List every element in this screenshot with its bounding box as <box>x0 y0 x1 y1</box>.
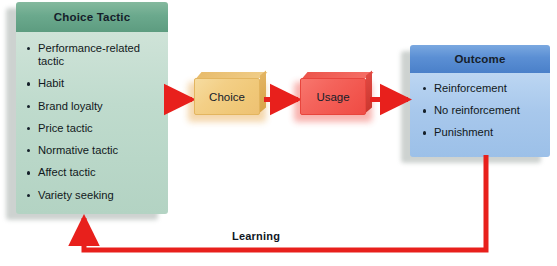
choice-node-right-face <box>260 70 266 112</box>
outcome-body: Reinforcement No reinforcement Punishmen… <box>410 73 550 157</box>
outcome-list: Reinforcement No reinforcement Punishmen… <box>422 82 544 140</box>
flow-diagram: Choice Tactic Performance-related tactic… <box>0 0 557 266</box>
list-item: Variety seeking <box>26 189 162 202</box>
choice-node-label: Choice <box>194 78 260 115</box>
usage-node[interactable]: Usage <box>300 78 366 115</box>
choice-tactic-list: Performance-related tactic Habit Brand l… <box>26 42 162 202</box>
list-item: Affect tactic <box>26 166 162 179</box>
choice-tactic-panel[interactable]: Choice Tactic Performance-related tactic… <box>16 2 168 214</box>
choice-tactic-title: Choice Tactic <box>16 2 168 32</box>
outcome-title: Outcome <box>410 45 550 73</box>
list-item: Reinforcement <box>422 82 544 95</box>
usage-node-right-face <box>366 70 372 112</box>
choice-node[interactable]: Choice <box>194 78 260 115</box>
choice-tactic-body: Performance-related tactic Habit Brand l… <box>16 32 168 214</box>
list-item: Habit <box>26 77 162 90</box>
list-item: Performance-related tactic <box>26 42 162 68</box>
list-item: Punishment <box>422 126 544 139</box>
list-item: No reinforcement <box>422 104 544 117</box>
list-item: Brand loyalty <box>26 100 162 113</box>
list-item: Normative tactic <box>26 144 162 157</box>
list-item: Price tactic <box>26 122 162 135</box>
outcome-panel[interactable]: Outcome Reinforcement No reinforcement P… <box>410 45 550 157</box>
usage-node-label: Usage <box>300 78 366 115</box>
learning-label: Learning <box>232 230 280 242</box>
